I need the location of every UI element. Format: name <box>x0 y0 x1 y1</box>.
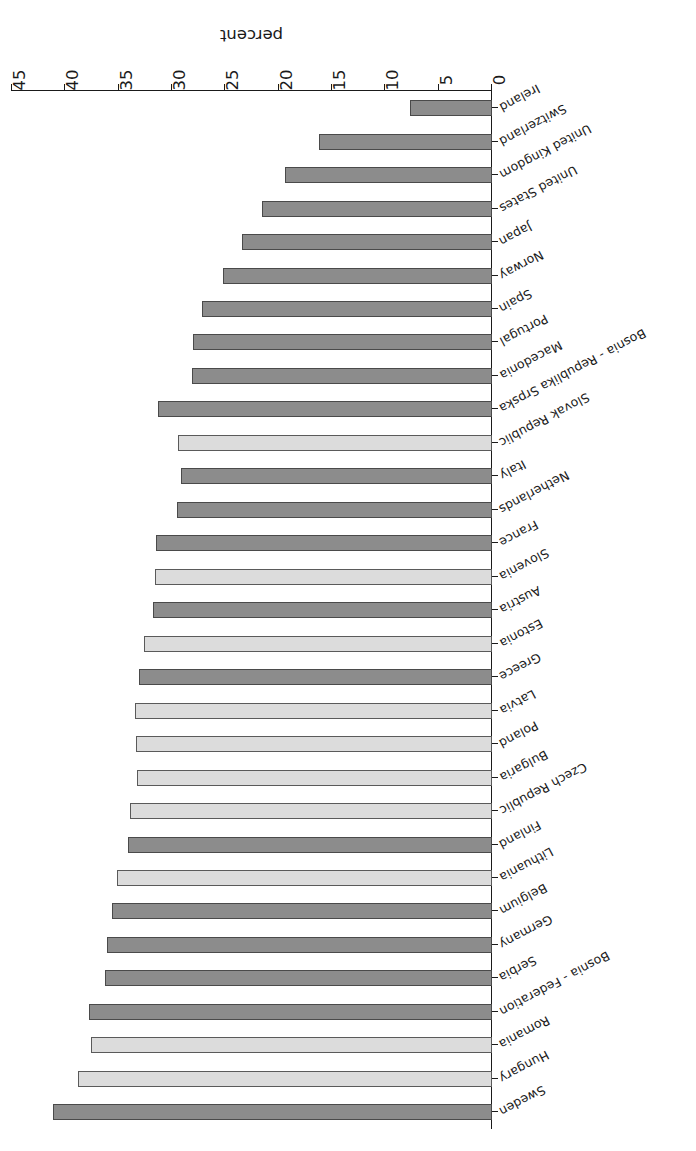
category-tick <box>492 743 498 744</box>
bar-row <box>12 359 492 392</box>
category-label-slot: Germany <box>492 928 696 961</box>
value-tick-label: 40 <box>65 70 82 91</box>
category-label-slot: Poland <box>492 727 696 760</box>
category-label-slot: Switzerland <box>492 125 696 158</box>
bar-row <box>12 828 492 861</box>
bar-row <box>12 1062 492 1095</box>
bar-row <box>12 694 492 727</box>
bar <box>139 669 492 685</box>
category-tick <box>492 710 498 711</box>
category-label-slot: Bosnia - Federation <box>492 995 696 1028</box>
bar-row <box>12 326 492 359</box>
bar <box>155 569 492 585</box>
category-label-slot: Finland <box>492 828 696 861</box>
category-label-slot: Japan <box>492 225 696 258</box>
bar-row <box>12 158 492 191</box>
bar <box>105 970 492 986</box>
category-label-slot: Hungary <box>492 1062 696 1095</box>
category-tick <box>492 643 498 644</box>
bar <box>153 602 492 618</box>
category-label-slot: Sweden <box>492 1096 696 1129</box>
category-tick <box>492 576 498 577</box>
category-label-slot: Greece <box>492 660 696 693</box>
category-tick <box>492 241 498 242</box>
category-label: Ireland <box>497 82 542 114</box>
bar <box>89 1004 492 1020</box>
value-tick-label: 35 <box>119 70 136 91</box>
category-label-slot: Ireland <box>492 91 696 124</box>
category-label-slot: Norway <box>492 259 696 292</box>
category-tick <box>492 944 498 945</box>
bar-row <box>12 393 492 426</box>
category-label-slot: United States <box>492 192 696 225</box>
category-tick <box>492 308 498 309</box>
value-tick-label: 0 <box>492 75 509 86</box>
bar-row <box>12 995 492 1028</box>
value-tick-label: 25 <box>225 70 242 91</box>
category-tick <box>492 275 498 276</box>
value-tick-label: 30 <box>172 70 189 91</box>
bar-row <box>12 460 492 493</box>
value-tick-label: 45 <box>12 70 29 91</box>
bar-rows <box>12 91 492 1129</box>
category-label-slot: Bulgaria <box>492 761 696 794</box>
bar-row <box>12 928 492 961</box>
bar-row <box>12 660 492 693</box>
category-tick <box>492 777 498 778</box>
category-tick <box>492 141 498 142</box>
bar <box>178 435 492 451</box>
category-tick <box>492 1011 498 1012</box>
bar <box>136 736 492 752</box>
category-tick <box>492 208 498 209</box>
category-label-slot: Italy <box>492 460 696 493</box>
bar-chart-figure: SwedenHungaryRomaniaBosnia - FederationS… <box>0 0 696 1151</box>
bar-row <box>12 861 492 894</box>
category-label-slot: United Kingdom <box>492 158 696 191</box>
bar <box>91 1037 492 1053</box>
bar-row <box>12 594 492 627</box>
category-tick <box>492 375 498 376</box>
bar-row <box>12 727 492 760</box>
bar-row <box>12 761 492 794</box>
value-tick-label: 15 <box>332 70 349 91</box>
value-axis-title: percent <box>11 27 492 44</box>
bar <box>223 268 492 284</box>
category-label-slot: Estonia <box>492 627 696 660</box>
category-label-slot: Serbia <box>492 962 696 995</box>
category-label-slot: Slovenia <box>492 560 696 593</box>
bar <box>137 770 492 786</box>
category-tick <box>492 542 498 543</box>
category-tick <box>492 442 498 443</box>
category-label-slot: Macedonia <box>492 359 696 392</box>
category-tick <box>492 107 498 108</box>
category-label-slot: Spain <box>492 292 696 325</box>
value-tick-label: 10 <box>385 70 402 91</box>
bar <box>135 703 492 719</box>
bar-row <box>12 560 492 593</box>
bar <box>107 937 492 953</box>
category-tick <box>492 1044 498 1045</box>
category-tick <box>492 475 498 476</box>
bar <box>144 636 492 652</box>
bar <box>242 234 492 250</box>
bar <box>78 1071 492 1087</box>
bar-row <box>12 1029 492 1062</box>
bar <box>262 201 492 217</box>
category-tick <box>492 609 498 610</box>
category-label-slot: Netherlands <box>492 493 696 526</box>
bar-row <box>12 91 492 124</box>
category-tick <box>492 844 498 845</box>
bar-row <box>12 426 492 459</box>
category-label-slot: Belgium <box>492 895 696 928</box>
category-tick <box>492 676 498 677</box>
bar-row <box>12 1096 492 1129</box>
value-tick-label: 5 <box>439 75 456 86</box>
bar <box>285 167 492 183</box>
category-label-slot: Lithuania <box>492 861 696 894</box>
bar-row <box>12 259 492 292</box>
bar <box>192 368 492 384</box>
chart-figure-rotator: SwedenHungaryRomaniaBosnia - FederationS… <box>0 0 696 1151</box>
category-tick <box>492 1111 498 1112</box>
bar <box>112 903 492 919</box>
category-label-slot: Slovak Republic <box>492 426 696 459</box>
